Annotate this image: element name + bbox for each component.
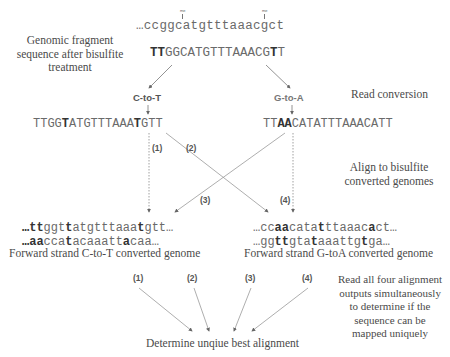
bold-bases: AA xyxy=(277,117,291,131)
genomic-sequence: …ccggcatgtttaaacgct xyxy=(136,19,284,33)
bold-bases: t xyxy=(318,221,325,235)
genome-strand-top: …ccaacatatttaaacact… xyxy=(253,221,397,235)
label-line: Genomic fragment xyxy=(6,34,134,48)
bases: T xyxy=(278,46,286,60)
read-all-label: Read all four alignment outputs simultan… xyxy=(330,273,450,341)
bases: ct… xyxy=(375,221,397,235)
bases: TT xyxy=(263,117,277,131)
c-to-t-genome-caption: Forward strand C-to-T converted genome xyxy=(9,247,200,259)
alignment-label-1: (1) xyxy=(152,143,162,153)
methylation-mark: me xyxy=(262,8,268,13)
g-to-a-genome-caption: Forward strand G-toA converted genome xyxy=(244,247,433,259)
bold-bases: aa xyxy=(275,221,289,235)
genomic-fragment-label: Genomic fragment sequence after bisulfit… xyxy=(6,34,134,75)
bold-bases: TT xyxy=(150,46,165,60)
alignment-label-4: (4) xyxy=(280,195,290,205)
label-line: sequence after bisulfite xyxy=(6,48,134,62)
output-label-1: (1) xyxy=(133,273,143,283)
c-to-t-label: C-to-T xyxy=(133,92,161,103)
label-line: treatment xyxy=(6,61,134,75)
best-alignment-result: Determine unqiue best alignment xyxy=(146,337,299,349)
bases: GGCATGTTTAAACG xyxy=(165,46,270,60)
bold-bases: T xyxy=(134,117,141,131)
bold-bases: T xyxy=(270,46,278,60)
c-to-t-genome: …ttggttatgtttaaatgtt… …aaccatacaaattacaa… xyxy=(22,221,173,249)
bases: gtt… xyxy=(144,221,173,235)
bases: atgtttaaa xyxy=(72,221,137,235)
bases: cata xyxy=(289,221,318,235)
read-conversion-label: Read conversion xyxy=(351,88,428,100)
bases: …cc xyxy=(253,221,275,235)
output-label-2: (2) xyxy=(187,273,197,283)
label-line: converted genomes xyxy=(330,174,448,188)
arrow-to-g-to-a xyxy=(266,65,290,88)
label-line: outputs simultaneously xyxy=(330,287,450,301)
g-to-a-genome: …ccaacatatttaaacact… …ggttgtataaattgtga… xyxy=(253,221,397,249)
label-line: to determine if the xyxy=(330,300,450,314)
label-line: Align to bisulfite xyxy=(330,160,448,174)
align-line-2 xyxy=(166,133,268,212)
g-to-a-read: TTAACATATTTAAACATT xyxy=(263,117,393,131)
bases: CATATTTAAACATT xyxy=(292,117,393,131)
alignment-label-3: (3) xyxy=(200,195,210,205)
g-to-a-label: G-to-A xyxy=(274,92,304,103)
output-line-3 xyxy=(234,288,251,331)
bold-bases: …tt xyxy=(22,221,44,235)
label-line: sequence can be xyxy=(330,314,450,328)
align-label: Align to bisulfite converted genomes xyxy=(330,160,448,188)
output-line-2 xyxy=(194,288,209,331)
output-label-4: (4) xyxy=(302,273,312,283)
bold-bases: T xyxy=(62,117,69,131)
output-label-3: (3) xyxy=(245,273,255,283)
genome-strand-top: …ttggttatgtttaaatgtt… xyxy=(22,221,173,235)
bases: ttaaac xyxy=(325,221,368,235)
bases: GTT xyxy=(141,117,163,131)
bisulfite-read: TTGGCATGTTTAAACGTT xyxy=(150,46,285,60)
methylation-mark: me xyxy=(180,8,186,13)
c-to-t-read: TTGGTATGTTTAAATGTT xyxy=(33,117,163,131)
bases: TTGG xyxy=(33,117,62,131)
output-line-1 xyxy=(139,288,192,331)
label-line: mapped uniquely xyxy=(330,327,450,341)
alignment-label-2: (2) xyxy=(186,143,196,153)
bases: ggt xyxy=(44,221,66,235)
arrow-to-c-to-t xyxy=(149,65,172,88)
label-line: Read all four alignment xyxy=(330,273,450,287)
bases: ATGTTTAAA xyxy=(69,117,134,131)
output-line-4 xyxy=(252,288,308,331)
